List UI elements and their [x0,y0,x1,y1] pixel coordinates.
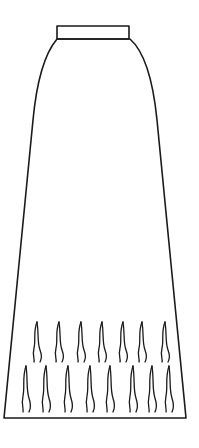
skirt-drawing [0,0,199,448]
fringe-squiggle [148,366,152,412]
fringe-squiggle [165,322,170,362]
fringe-squiggle [165,366,169,412]
fringe-squiggle [26,366,31,412]
fringe-squiggle [33,322,37,362]
fringe-squiggle [77,322,81,362]
fringe-squiggle [86,366,90,412]
fringe-row-top [33,322,169,362]
fringe-squiggle [119,322,123,362]
fringe-squiggle [138,322,142,362]
fringe-squiggle [90,366,95,412]
fringe-squiggle [102,322,107,362]
fringe-squiggle [152,366,157,412]
fringe-squiggle [42,366,46,412]
fringe-squiggle [81,322,86,362]
fringe-squiggle [55,322,59,362]
fringe-squiggle [68,366,73,412]
fringe-squiggle [123,322,128,362]
fringe-squiggle [22,366,26,412]
fringe-squiggle [106,366,110,412]
fringe-squiggle [169,366,174,412]
waistband [57,26,129,39]
fringe-squiggle [110,366,115,412]
skirt-illustration: A-line maxi skirt line drawing [0,0,199,448]
fringe-squiggle [59,322,64,362]
fringe-squiggle [161,322,165,362]
fringe-squiggle [64,366,68,412]
fringe-squiggle [37,322,42,362]
fringe-squiggle [98,322,102,362]
skirt-outline [4,39,186,418]
fringe-row-bottom [22,366,173,412]
fringe-squiggle [46,366,51,412]
fringe-squiggle [142,322,147,362]
fringe-squiggle [129,366,133,412]
fringe-squiggle [133,366,138,412]
